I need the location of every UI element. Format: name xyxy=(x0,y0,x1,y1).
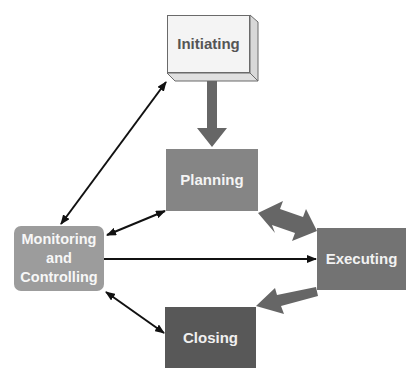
node-planning: Planning xyxy=(166,149,258,211)
node-planning-label: Planning xyxy=(180,170,243,190)
node-closing-label: Closing xyxy=(183,328,238,348)
node-initiating: Initiating xyxy=(167,15,250,73)
node-monitoring-label-line-3: Controlling xyxy=(20,268,97,287)
arrow-monitoring-initiating xyxy=(61,82,166,224)
arrow-executing-to-closing xyxy=(256,287,318,314)
arrow-monitoring-closing xyxy=(106,292,164,333)
node-monitoring-label-line-1: Monitoring xyxy=(20,230,97,249)
arrow-monitoring-planning xyxy=(107,211,165,235)
node-executing: Executing xyxy=(317,228,406,290)
node-executing-label: Executing xyxy=(326,249,398,269)
node-monitoring-label-line-2: and xyxy=(20,249,97,268)
arrow-initiating-to-planning xyxy=(197,81,227,147)
node-closing: Closing xyxy=(165,307,256,368)
arrow-planning-executing xyxy=(258,201,317,241)
node-monitoring-and-controlling: Monitoring and Controlling xyxy=(14,226,104,291)
node-initiating-label: Initiating xyxy=(177,34,240,54)
